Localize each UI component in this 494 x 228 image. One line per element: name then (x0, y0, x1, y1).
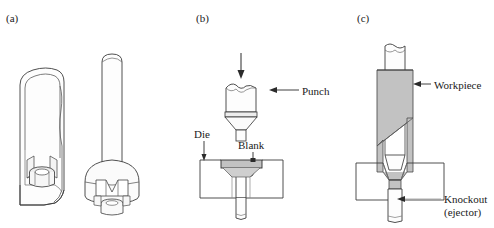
panel-label-b: (b) (196, 12, 209, 24)
flanged-part-shaft (102, 54, 122, 170)
die-block-b-extrusion (236, 198, 246, 220)
flanged-part-boss-bore (106, 201, 118, 206)
punch-b-collar (225, 112, 257, 117)
punch-c-nose (385, 155, 405, 170)
panel-label-a: (a) (6, 12, 18, 24)
label-workpiece: Workpiece (434, 79, 481, 91)
label-die: Die (194, 128, 210, 140)
knockout-pin (388, 189, 402, 223)
label-punch: Punch (302, 85, 330, 97)
label-blank: Blank (238, 139, 264, 151)
cup-boss-bore (35, 169, 49, 175)
label-knockout: Knockout (ejector) (444, 193, 487, 218)
blank-body (221, 160, 262, 168)
flanged-part-tab-right (123, 196, 130, 206)
panel-label-c: (c) (357, 12, 369, 24)
workpiece-stem (389, 180, 401, 189)
flanged-part-tab-left (94, 196, 101, 206)
workpiece-wall-right (407, 118, 413, 172)
label-knockout-line1: Knockout (444, 193, 487, 206)
sectioned-cup (20, 68, 64, 205)
punch-c-shaft-top (385, 44, 405, 70)
blank-leader-arrow (251, 158, 256, 162)
label-knockout-line2: (ejector) (444, 206, 487, 219)
extrusion-process-figure (0, 0, 494, 228)
flanged-part-head (85, 160, 139, 204)
